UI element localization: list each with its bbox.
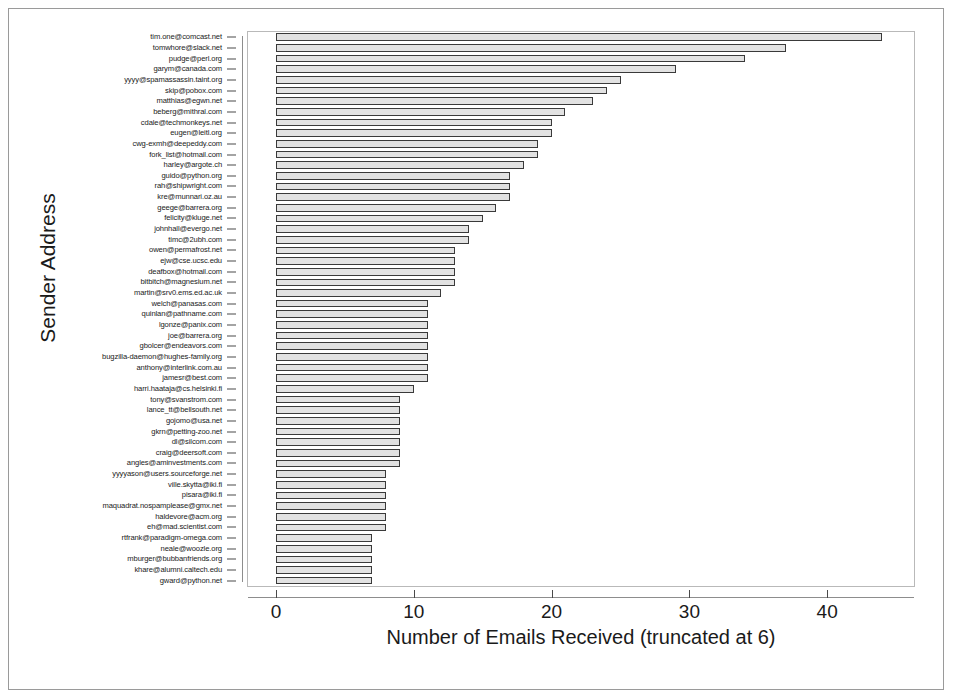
y-axis-tick-mark: [227, 79, 236, 80]
y-axis-tick-mark: [227, 154, 236, 155]
y-axis-tick-label: khare@alumni.caltech.edu: [134, 566, 222, 574]
y-axis-tick-mark: [227, 378, 236, 379]
y-axis-tick-mark: [227, 580, 236, 581]
y-axis-tick-label: pisara@iki.fi: [182, 491, 222, 499]
y-axis-tick-mark: [227, 207, 236, 208]
bar: [276, 247, 455, 255]
y-axis-tick-label: eh@mad.scientist.com: [147, 523, 222, 531]
y-axis-tick-label: rtfrank@paradigm-omega.com: [122, 534, 223, 542]
bar: [276, 513, 386, 521]
y-axis-tick-label: anthony@interlink.com.au: [136, 364, 222, 372]
y-axis-tick-mark: [227, 495, 236, 496]
y-axis-tick-mark: [227, 516, 236, 517]
y-axis-tick-label: bitbitch@magnesium.net: [141, 278, 223, 286]
bar: [276, 76, 621, 84]
bar: [276, 353, 428, 361]
y-axis-tick-mark: [227, 186, 236, 187]
y-axis-tick-label: geege@barrera.org: [157, 204, 222, 212]
bar: [276, 396, 400, 404]
bar: [276, 44, 786, 52]
x-axis-title: Number of Emails Received (truncated at …: [247, 626, 915, 649]
y-axis-tick-label: cdale@techmonkeys.net: [141, 119, 222, 127]
y-axis-tick-label: yyyyason@users.sourceforge.net: [112, 470, 222, 478]
y-axis-tick-label: ejw@cse.ucsc.edu: [160, 257, 222, 265]
y-axis-tick-labels: tim.one@comcast.nettomwhore@slack.netpud…: [80, 32, 238, 586]
bar: [276, 55, 745, 63]
y-axis-tick-mark: [227, 484, 236, 485]
y-axis-tick-label: cwg-exmh@deepeddy.com: [133, 140, 222, 148]
y-axis-tick-label: joe@barrera.org: [168, 332, 222, 340]
bars-container: [248, 32, 914, 586]
y-axis-tick-mark: [227, 324, 236, 325]
y-axis-tick-mark: [227, 229, 236, 230]
y-axis-tick-mark: [227, 69, 236, 70]
bar: [276, 524, 386, 532]
bar: [276, 289, 441, 297]
y-axis-tick-label: eugen@leitl.org: [170, 129, 222, 137]
y-axis-tick-mark: [227, 463, 236, 464]
y-axis-tick-mark: [227, 122, 236, 123]
y-axis-tick-mark: [227, 37, 236, 38]
bar: [276, 268, 455, 276]
y-axis-tick-mark: [227, 197, 236, 198]
x-axis-tick-mark: [552, 590, 553, 598]
y-axis-tick-mark: [227, 474, 236, 475]
y-axis-tick-label: ville.skytta@iki.fi: [168, 481, 222, 489]
y-axis-tick-mark: [227, 506, 236, 507]
y-axis-tick-label: garym@canada.com: [153, 65, 222, 73]
y-axis-tick-mark: [227, 261, 236, 262]
y-axis-tick-mark: [227, 293, 236, 294]
bar: [276, 460, 400, 468]
bar: [276, 215, 483, 223]
y-axis-tick-label: tim.one@comcast.net: [150, 33, 222, 41]
y-axis-tick-mark: [227, 165, 236, 166]
x-axis-tick-label: 40: [817, 601, 838, 623]
bar: [276, 449, 400, 457]
bar: [276, 129, 552, 137]
y-axis-tick-mark: [227, 47, 236, 48]
x-axis-tick-mark: [414, 590, 415, 598]
y-axis-tick-label: skip@pobox.com: [165, 87, 222, 95]
bar: [276, 257, 455, 265]
y-axis-tick-label: gojomo@usa.net: [166, 417, 222, 425]
x-axis-tick-label: 10: [403, 601, 424, 623]
y-axis-tick-label: jamesr@best.com: [162, 374, 222, 382]
bar: [276, 97, 593, 105]
bar: [276, 374, 428, 382]
y-axis-tick-label: quinlan@pathname.com: [142, 310, 222, 318]
y-axis-tick-mark: [227, 250, 236, 251]
y-axis-tick-mark: [227, 101, 236, 102]
y-axis-tick-mark: [227, 367, 236, 368]
x-axis-tick-label: 0: [271, 601, 282, 623]
y-axis-tick-mark: [227, 303, 236, 304]
y-axis-tick-mark: [227, 356, 236, 357]
y-axis-tick-mark: [227, 559, 236, 560]
bar: [276, 140, 538, 148]
y-axis-tick-label: lance_tt@bellsouth.net: [147, 406, 222, 414]
figure-canvas: tim.one@comcast.nettomwhore@slack.netpud…: [0, 0, 954, 699]
y-axis-tick-label: harri.haataja@cs.helsinki.fi: [134, 385, 222, 393]
y-axis-tick-label: neale@woozle.org: [161, 545, 222, 553]
y-axis-tick-label: lgonze@panix.com: [159, 321, 222, 329]
bar: [276, 321, 428, 329]
bar: [276, 534, 372, 542]
bar: [276, 87, 607, 95]
x-axis-tick-mark: [827, 590, 828, 598]
y-axis-tick-label: deafbox@hotmail.com: [148, 268, 222, 276]
y-axis-tick-mark: [227, 346, 236, 347]
bar: [276, 204, 496, 212]
y-axis-tick-label: rah@shipwright.com: [154, 182, 222, 190]
bar: [276, 65, 676, 73]
x-axis-spine: [248, 597, 914, 598]
bar: [276, 193, 510, 201]
bar: [276, 364, 428, 372]
bar: [276, 151, 538, 159]
bar: [276, 406, 400, 414]
bar: [276, 161, 524, 169]
y-axis-tick-mark: [227, 282, 236, 283]
bar: [276, 310, 428, 318]
bar: [276, 279, 455, 287]
bar: [276, 492, 386, 500]
y-axis-tick-label: yyyy@spamassassin.taint.org: [124, 76, 222, 84]
y-axis-tick-label: guido@python.org: [161, 172, 222, 180]
